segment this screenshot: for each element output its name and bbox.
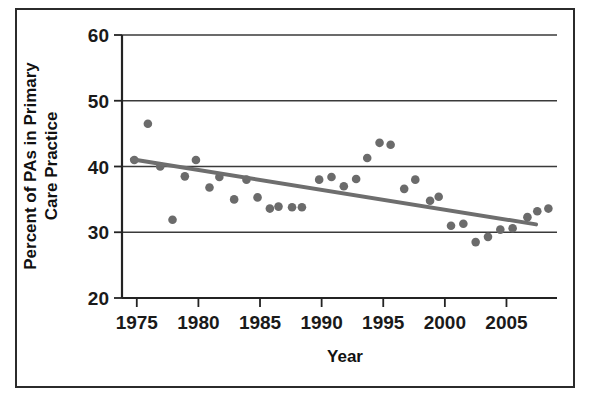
- data-point: [340, 182, 349, 191]
- y-axis-title-line2: Care Practice: [42, 112, 61, 221]
- scatter-chart: 2030405060 1975198019851990199520002005 …: [0, 0, 590, 398]
- y-axis-title-line1: Percent of PAs in Primary: [21, 62, 40, 270]
- data-point: [508, 224, 517, 233]
- y-tick-label-60: 60: [88, 25, 109, 46]
- data-point: [192, 156, 201, 165]
- x-tick-label-2005: 2005: [485, 312, 528, 333]
- y-tick-label-50: 50: [88, 91, 109, 112]
- data-points-group: [130, 119, 553, 246]
- data-point: [168, 215, 177, 224]
- data-point: [205, 183, 214, 192]
- y-tick-label-20: 20: [88, 288, 109, 309]
- trend-line: [132, 159, 536, 224]
- data-point: [253, 193, 262, 202]
- data-point: [411, 175, 420, 184]
- data-point: [327, 173, 336, 182]
- y-tick-label-30: 30: [88, 222, 109, 243]
- data-point: [434, 192, 443, 201]
- data-point: [471, 238, 480, 247]
- y-axis-ticks-group: 2030405060: [88, 25, 122, 309]
- x-tick-label-1990: 1990: [300, 312, 342, 333]
- data-point: [484, 233, 493, 242]
- x-tick-label-1980: 1980: [177, 312, 219, 333]
- x-tick-label-1975: 1975: [116, 312, 159, 333]
- data-point: [426, 196, 435, 205]
- data-point: [400, 185, 409, 194]
- x-tick-label-2000: 2000: [424, 312, 466, 333]
- data-point: [496, 225, 505, 234]
- data-point: [447, 221, 456, 230]
- data-point: [386, 141, 395, 150]
- data-point: [363, 154, 372, 163]
- data-point: [533, 207, 542, 216]
- data-point: [288, 203, 297, 212]
- y-tick-label-40: 40: [88, 157, 109, 178]
- data-point: [375, 139, 384, 148]
- gridlines-group: [122, 35, 557, 232]
- data-point: [181, 172, 190, 181]
- x-tick-label-1985: 1985: [239, 312, 282, 333]
- data-point: [230, 195, 239, 204]
- x-axis-title: Year: [327, 347, 363, 366]
- data-point: [144, 119, 153, 128]
- data-point: [266, 204, 275, 213]
- x-axis-ticks-group: 1975198019851990199520002005: [116, 298, 528, 333]
- data-point: [544, 204, 553, 213]
- x-tick-label-1995: 1995: [362, 312, 405, 333]
- data-point: [459, 219, 468, 228]
- data-point: [298, 203, 307, 212]
- data-point: [315, 175, 324, 184]
- data-point: [352, 175, 361, 184]
- data-point: [523, 213, 532, 222]
- chart-figure: 2030405060 1975198019851990199520002005 …: [0, 0, 590, 398]
- data-point: [274, 202, 283, 211]
